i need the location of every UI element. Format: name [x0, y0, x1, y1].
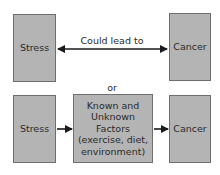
stress-box-bottom: Stress	[13, 95, 56, 163]
cancer-label-top: Cancer	[173, 41, 206, 53]
stress-label-top: Stress	[20, 42, 49, 54]
or-separator: or	[102, 82, 122, 93]
cancer-box-bottom: Cancer	[169, 95, 211, 163]
cancer-label-bottom: Cancer	[173, 123, 206, 135]
cancer-box-top: Cancer	[169, 13, 211, 81]
factors-box: Known and Unknown Factors (exercise, die…	[73, 94, 153, 163]
stress-box-top: Stress	[13, 14, 56, 82]
could-lead-to-label: Could lead to	[72, 35, 152, 46]
factors-line-4: (exercise, diet,	[78, 134, 148, 146]
factors-line-3: Factors	[96, 123, 130, 135]
factors-line-1: Known and	[87, 100, 140, 112]
factors-line-2: Unknown	[91, 111, 135, 123]
stress-label-bottom: Stress	[20, 123, 49, 135]
factors-line-5: environment)	[81, 146, 145, 158]
